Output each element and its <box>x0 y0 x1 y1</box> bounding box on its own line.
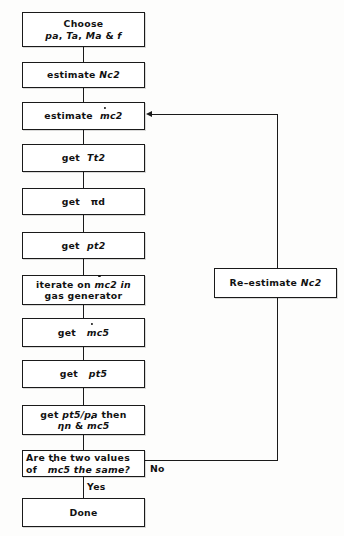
node-get-mc5-label: get mc5 <box>58 327 110 339</box>
arrow-into-estimate-mc2-icon <box>146 111 152 117</box>
node-decision-two-values[interactable]: Are the two values of mc5 the same? <box>22 450 145 477</box>
node-decision-line2: of mc5 the same? <box>26 464 141 476</box>
node-re-estimate-nc2-label: Re–estimate Nc2 <box>230 277 322 289</box>
node-get-tt2-label: get Tt2 <box>62 152 106 164</box>
node-choose-line1: Choose <box>45 18 121 30</box>
node-iterate-line1: iterate on mc2 in <box>36 279 131 291</box>
connector-get-mc5-to-get-pt5 <box>83 347 84 360</box>
connector-get-pid-to-get-pt2 <box>83 215 84 232</box>
node-done[interactable]: Done <box>22 498 145 527</box>
node-iterate-line2: gas generator <box>36 290 131 302</box>
node-get-pt5-pa[interactable]: get pt5/pa then ηn & mc5 <box>22 405 145 435</box>
connector-get-pt5-to-get-pt5-pa <box>83 388 84 405</box>
node-done-label: Done <box>69 507 97 519</box>
node-get-pt2-label: get pt2 <box>62 240 106 252</box>
node-estimate-nc2[interactable]: estimate Nc2 <box>22 62 145 88</box>
edge-label-yes: Yes <box>87 481 106 492</box>
edge-label-no: No <box>150 463 165 474</box>
flowchart-canvas: Choose pa, Ta, Ma & f estimate Nc2 estim… <box>0 0 344 536</box>
connector-decision-yes-to-done <box>83 477 84 498</box>
node-get-pid[interactable]: get πd <box>22 188 145 215</box>
node-choose[interactable]: Choose pa, Ta, Ma & f <box>22 12 145 47</box>
node-iterate-gas-generator[interactable]: iterate on mc2 in gas generator <box>22 275 145 305</box>
connector-get-pt5-pa-to-decision <box>83 435 84 450</box>
node-decision-line1: Are the two values <box>26 452 141 464</box>
node-estimate-nc2-label: estimate Nc2 <box>47 69 120 81</box>
node-get-pt2[interactable]: get pt2 <box>22 232 145 259</box>
connector-no-branch-horizontal <box>145 460 278 461</box>
connector-get-pt2-to-iterate <box>83 259 84 275</box>
connector-choose-to-estimate-nc2 <box>83 47 84 62</box>
node-get-pt5-pa-line1: get pt5/pa then <box>40 409 126 421</box>
connector-iterate-to-get-mc5 <box>83 305 84 318</box>
node-get-mc5[interactable]: get mc5 <box>22 318 145 347</box>
connector-no-branch-up-to-re-estimate <box>277 298 278 461</box>
node-get-pt5-pa-line2: ηn & mc5 <box>40 420 126 432</box>
node-re-estimate-nc2[interactable]: Re–estimate Nc2 <box>214 268 337 298</box>
connector-get-tt2-to-get-pid <box>83 172 84 188</box>
connector-re-estimate-up <box>277 114 278 269</box>
connector-feedback-horizontal <box>152 114 278 115</box>
node-choose-line2: pa, Ta, Ma & f <box>45 30 121 42</box>
node-get-tt2[interactable]: get Tt2 <box>22 144 145 172</box>
node-get-pid-label: get πd <box>62 196 106 208</box>
node-get-pt5[interactable]: get pt5 <box>22 360 145 388</box>
connector-estimate-mc2-to-get-tt2 <box>83 130 84 144</box>
node-estimate-mc2[interactable]: estimate mc2 <box>22 102 145 130</box>
node-estimate-mc2-label: estimate mc2 <box>44 110 122 122</box>
node-get-pt5-label: get pt5 <box>60 368 107 380</box>
connector-estimate-nc2-to-estimate-mc2 <box>83 88 84 102</box>
